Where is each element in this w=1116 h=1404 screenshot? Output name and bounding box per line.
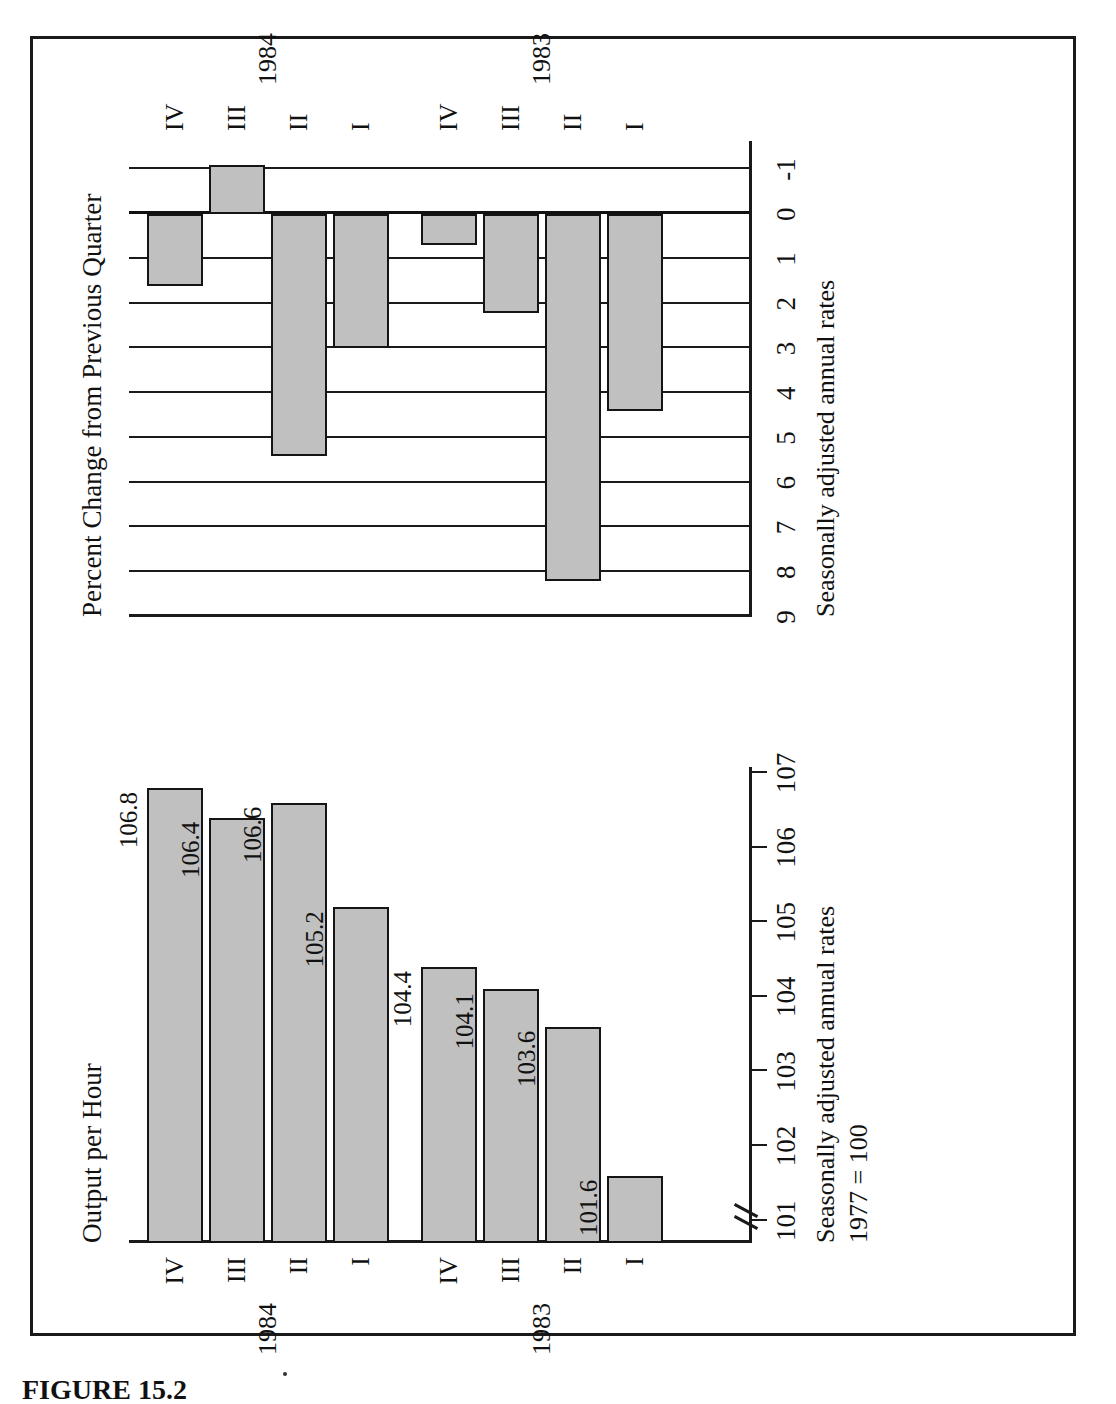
right-bar — [421, 214, 477, 245]
right-axis-tick-label: 7 — [771, 521, 802, 535]
left-year-label-1984: 1984 — [253, 1303, 283, 1355]
left-quarter-label: II — [284, 1257, 314, 1274]
left-axis-tick-label: 104 — [771, 977, 802, 1018]
left-axis-tick-label: 105 — [771, 902, 802, 943]
left-axis-tick-label: 103 — [771, 1051, 802, 1092]
left-bar-value-label: 103.6 — [513, 1031, 541, 1087]
right-quarter-label: III — [222, 105, 252, 131]
right-axis-tick-label: 8 — [771, 566, 802, 580]
right-chart-title: Percent Change from Previous Quarter — [77, 194, 108, 617]
left-quarter-label: I — [346, 1257, 376, 1266]
right-note-line-1: Seasonally adjusted annual rates — [809, 280, 842, 617]
right-gridline — [129, 481, 749, 483]
right-gridline — [129, 570, 749, 572]
right-axis-tick-label: -1 — [771, 158, 802, 181]
left-quarter-label: III — [222, 1257, 252, 1283]
left-axis-tick — [749, 846, 767, 848]
left-note-line-1: Seasonally adjusted annual rates — [809, 906, 842, 1243]
left-bar-value-label: 106.4 — [177, 822, 205, 878]
right-bar — [607, 214, 663, 411]
right-year-label-1983: 1983 — [527, 33, 557, 85]
left-quarter-label: II — [558, 1257, 588, 1274]
right-axis-tick-label: 3 — [771, 342, 802, 356]
right-bar — [333, 214, 389, 348]
right-year-label-1984: 1984 — [253, 33, 283, 85]
left-axis-tick — [749, 1069, 767, 1071]
left-axis-tick — [749, 771, 767, 773]
left-bar-value-label: 104.1 — [451, 993, 479, 1049]
left-bar — [209, 818, 265, 1243]
right-gridline — [129, 525, 749, 527]
right-axis-tick-label: 6 — [771, 476, 802, 490]
right-bar — [271, 214, 327, 456]
figure-page: Output per Hour 101102103104105106107106… — [0, 0, 1116, 1404]
left-bar — [271, 803, 327, 1243]
left-quarter-label: IV — [434, 1257, 464, 1284]
left-chart-note: Seasonally adjusted annual rates 1977 = … — [809, 906, 876, 1243]
left-axis-tick — [749, 1219, 767, 1221]
rotated-figure-canvas: Output per Hour 101102103104105106107106… — [33, 39, 1079, 1339]
left-quarter-label: III — [496, 1257, 526, 1283]
left-chart-title: Output per Hour — [77, 1063, 108, 1243]
left-bar-value-label: 105.2 — [301, 911, 329, 967]
right-axis-tick-label: 4 — [771, 386, 802, 400]
left-value-axis — [749, 767, 752, 1243]
figure-caption: FIGURE 15.2 — [22, 1374, 187, 1404]
left-bar-value-label: 106.8 — [115, 792, 143, 848]
right-bar — [209, 165, 265, 214]
right-gridline — [129, 615, 749, 617]
right-gridline — [129, 436, 749, 438]
right-axis-tick-label: 9 — [771, 610, 802, 624]
left-bar-value-label: 101.6 — [575, 1180, 603, 1236]
left-bar — [483, 989, 539, 1243]
right-quarter-label: I — [346, 122, 376, 131]
left-axis-tick-label: 101 — [771, 1200, 802, 1241]
right-quarter-label: IV — [160, 104, 190, 131]
left-bar — [607, 1176, 663, 1243]
panel-output-per-hour: Output per Hour 101102103104105106107106… — [33, 693, 1079, 1339]
right-quarter-label: II — [284, 114, 314, 131]
right-value-axis — [749, 141, 752, 617]
right-bar — [483, 214, 539, 312]
right-plot-area: -10123456789IVIIIIIIIVIIIIII19841983 — [129, 147, 749, 617]
left-axis-tick — [749, 995, 767, 997]
left-bar — [333, 907, 389, 1243]
left-axis-tick-label: 102 — [771, 1126, 802, 1167]
right-quarter-label: III — [496, 105, 526, 131]
left-quarter-label: IV — [160, 1257, 190, 1284]
left-axis-tick-label: 107 — [771, 753, 802, 794]
right-axis-tick-label: 1 — [771, 252, 802, 266]
right-quarter-label: I — [620, 122, 650, 131]
right-axis-tick-label: 0 — [771, 207, 802, 221]
panel-percent-change: Percent Change from Previous Quarter -10… — [33, 39, 1079, 679]
left-plot-area: 101102103104105106107106.8106.4106.6105.… — [129, 773, 749, 1243]
left-quarter-label: I — [620, 1257, 650, 1266]
left-bar-value-label: 104.4 — [389, 971, 417, 1027]
left-axis-tick-label: 106 — [771, 827, 802, 868]
right-bar — [147, 214, 203, 286]
left-note-line-2: 1977 = 100 — [842, 906, 875, 1243]
right-quarter-label: IV — [434, 104, 464, 131]
page-dot-mark — [283, 1372, 287, 1376]
figure-border: Output per Hour 101102103104105106107106… — [30, 36, 1076, 1336]
left-year-label-1983: 1983 — [527, 1303, 557, 1355]
left-axis-tick — [749, 1144, 767, 1146]
left-bar-value-label: 106.6 — [239, 807, 267, 863]
right-axis-tick-label: 2 — [771, 297, 802, 311]
right-chart-note: Seasonally adjusted annual rates — [809, 280, 842, 617]
right-axis-tick-label: 5 — [771, 431, 802, 445]
right-quarter-label: II — [558, 114, 588, 131]
right-bar — [545, 214, 601, 581]
left-axis-tick — [749, 920, 767, 922]
